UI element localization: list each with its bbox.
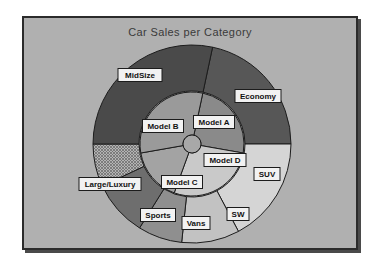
slice-label-vans: Vans — [182, 217, 210, 230]
label-text: Model B — [147, 122, 178, 131]
center-hub-circle — [183, 135, 201, 153]
slice-label-midsize: MidSize — [118, 69, 162, 82]
slice-label-economy: Economy — [235, 90, 281, 103]
slice-label-suv: SUV — [254, 168, 280, 181]
slice-label-model-c: Model C — [162, 176, 203, 189]
label-text: Model D — [209, 156, 240, 165]
slice-label-large-luxury: Large/Luxury — [79, 178, 141, 191]
label-text: MidSize — [125, 71, 155, 80]
slice-label-model-d: Model D — [204, 154, 246, 167]
slice-label-sw: SW — [227, 208, 249, 221]
label-text: SUV — [259, 170, 276, 179]
slice-label-sports: Sports — [141, 209, 176, 222]
nested-donut-chart: MidSizeEconomySUVSWVansSportsLarge/Luxur… — [24, 18, 360, 252]
label-text: Vans — [187, 219, 206, 228]
label-text: Large/Luxury — [85, 180, 136, 189]
label-text: Model C — [166, 178, 197, 187]
label-text: Economy — [240, 92, 277, 101]
label-text: Sports — [145, 211, 171, 220]
slice-label-model-b: Model B — [143, 120, 184, 133]
label-text: Model A — [199, 118, 230, 127]
chart-frame: Car Sales per Category MidSizeEconomySUV… — [22, 16, 358, 250]
label-text: SW — [232, 210, 245, 219]
center-hub — [183, 135, 201, 153]
slice-label-model-a: Model A — [194, 116, 235, 129]
